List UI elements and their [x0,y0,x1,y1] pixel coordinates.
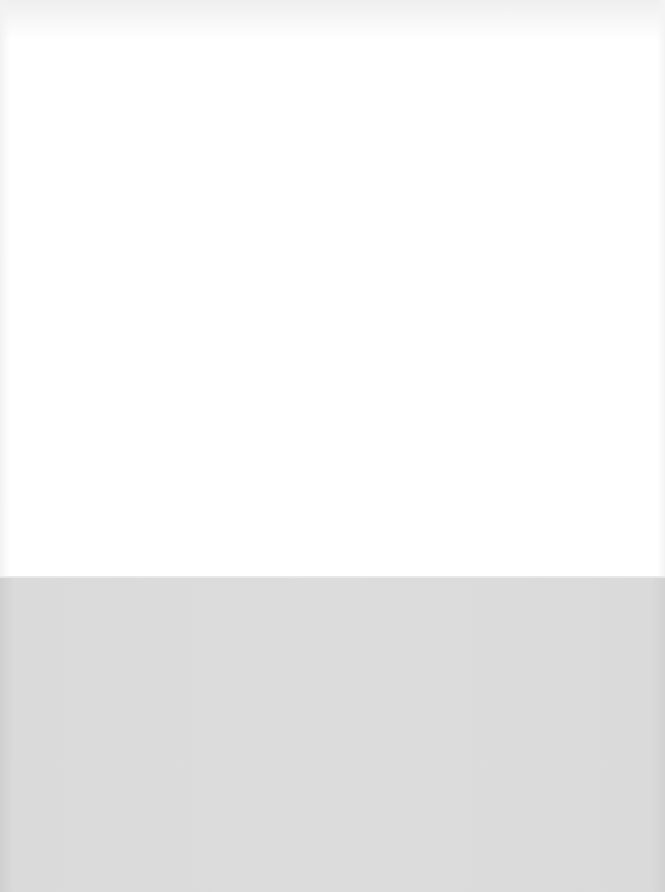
scanner-backing-area [0,576,665,892]
blank-paper-page [0,0,665,576]
scanned-document [0,0,665,892]
